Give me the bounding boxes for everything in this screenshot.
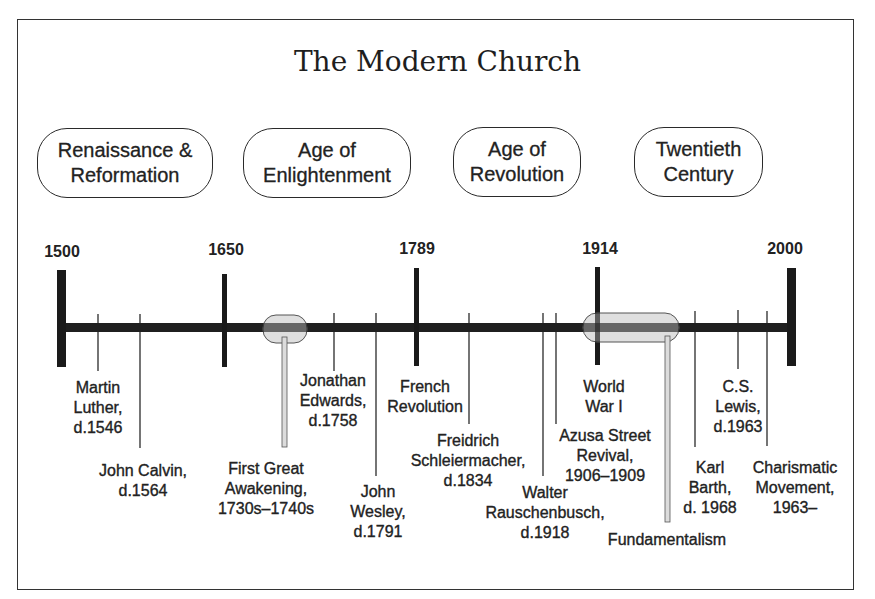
event-jonathan-edwards: Jonathan Edwards, d.1758 [300, 371, 367, 431]
divider-2000 [787, 268, 796, 366]
timeline-main-bar [60, 323, 792, 332]
divider-1650 [222, 274, 227, 367]
event-cs-lewis: C.S. Lewis, d.1963 [714, 377, 763, 437]
event-fundamentalism: Fundamentalism [608, 530, 726, 550]
event-charismatic-movement: Charismatic Movement, 1963– [753, 458, 837, 518]
divider-1500 [57, 270, 66, 367]
event-martin-luther: Martin Luther, d.1546 [74, 378, 123, 438]
span-great-awakening-stem [282, 337, 287, 447]
timeline-graphic [0, 0, 875, 599]
divider-1789 [414, 268, 419, 366]
event-world-war-i: World War I [583, 377, 625, 417]
event-azusa-street-revival: Azusa Street Revival, 1906–1909 [559, 426, 651, 486]
event-john-wesley: John Wesley, d.1791 [350, 482, 405, 542]
event-john-calvin: John Calvin, d.1564 [99, 461, 187, 501]
event-rauschenbusch: Walter Rauschenbusch, d.1918 [485, 483, 604, 543]
event-schleiermacher: Freidrich Schleiermacher, d.1834 [411, 431, 526, 491]
event-karl-barth: Karl Barth, d. 1968 [683, 458, 736, 518]
event-french-revolution: French Revolution [387, 377, 463, 417]
span-fundamentalism-stem [665, 336, 670, 522]
event-first-great-awakening: First Great Awakening, 1730s–1740s [218, 459, 314, 519]
